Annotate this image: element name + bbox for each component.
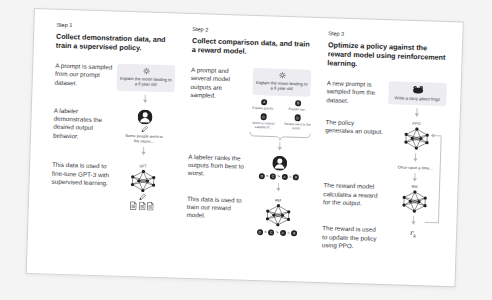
output-c-badge: C (260, 114, 267, 121)
step3-update-row: The reward is used to update the policy … (322, 225, 447, 254)
step1-labeler-figure: Some people went to the moon... (110, 108, 177, 156)
step2-train-row: This data is used to train our reward mo… (186, 195, 311, 237)
pencil-icon (141, 125, 148, 132)
rm-model-label: RM (275, 198, 281, 203)
document-icon (138, 202, 145, 211)
ppo-model-label: PPO (412, 121, 421, 126)
step1-column: Step 1 Collect demonstration data, and t… (49, 22, 181, 270)
step2-prompt-text: Explain the moon landing to a 6 year old (256, 80, 308, 93)
step3-label: Step 3 (328, 30, 452, 40)
step3-update-figure: rk (380, 226, 447, 253)
output-b-text: Explain war... (284, 107, 312, 112)
output-c-text: Moon is natural satellite of... (249, 121, 277, 130)
neural-network-icon (264, 203, 292, 227)
step1-finetune-figure: SFT (109, 163, 176, 212)
arrow-down-icon (140, 147, 146, 156)
step1-finetune-row: This data is used to fine-tune GPT-3 wit… (51, 161, 176, 212)
curly-brace (249, 131, 311, 142)
rank-item: C (270, 173, 276, 179)
step1-labeler-row: A labeler demonstrates the desired outpu… (52, 107, 177, 157)
step2-prompt-box: Explain the moon landing to a 6 year old (252, 68, 311, 97)
output-a-badge: A (261, 99, 268, 106)
step1-sample-figure: Explain the moon landing to a 6 year old (112, 64, 179, 105)
step1-demo-output: Some people went to the moon... (123, 133, 165, 145)
step1-sample-row: A prompt is sampled from our prompt data… (54, 62, 179, 105)
ppo-update-loop-arrow (424, 130, 447, 229)
output-d-badge: D (294, 115, 301, 122)
step3-output-spacer (324, 161, 383, 181)
rank-separator: > (264, 230, 267, 235)
arrow-down-icon (412, 153, 418, 162)
arrow-down-icon (277, 142, 283, 151)
rlhf-diagram-card: Step 1 Collect demonstration data, and t… (26, 8, 464, 287)
arrow-down-icon (412, 173, 418, 182)
rank-item: A (281, 174, 287, 180)
step3-policy-text: The policy generates an output. (324, 118, 383, 161)
arrow-down-icon (410, 216, 416, 225)
step3-prompt-box: Write a story about frogs (388, 81, 447, 106)
step1-sample-text: A prompt is sampled from our prompt data… (54, 62, 113, 103)
step2-column: Step 2 Collect comparison data, and trai… (185, 26, 317, 274)
sparkle-icon (142, 67, 149, 74)
document-icon (147, 202, 154, 211)
output-a-text: Explain gravity... (250, 106, 278, 111)
output-d: D People went to the moon... (282, 114, 312, 130)
reward-symbol: rk (410, 229, 416, 239)
step3-prompt-text: Write a story about frogs (394, 95, 440, 102)
labeler-icon (137, 109, 152, 124)
step1-prompt-box: Explain the moon landing to a 6 year old (116, 64, 175, 93)
step3-column: Step 3 Optimize a policy against the rew… (321, 30, 453, 278)
pencil-icon (139, 194, 146, 201)
step3-reward-text: The reward model calculates a reward for… (322, 182, 381, 225)
step2-title: Collect comparison data, and train a rew… (192, 36, 311, 58)
labeler-icon (272, 155, 287, 170)
rm-model-label: RM (411, 184, 417, 189)
rank-item: D (259, 173, 265, 179)
sft-model-label: SFT (139, 164, 147, 169)
sparkle-icon (278, 72, 285, 79)
step2-rank-text: A labeler ranks the outputs from best to… (187, 153, 246, 191)
output-d-text: People went to the moon... (283, 122, 311, 131)
step3-title: Optimize a policy against the reward mod… (327, 40, 446, 71)
step2-rank-figure: D > C > A = B (245, 155, 312, 193)
arrow-down-icon (142, 94, 148, 103)
rank-separator: > (278, 174, 281, 179)
ranking-display: D > C > A = B (257, 229, 298, 236)
step2-train-figure: RM D > C > A = B (244, 197, 311, 237)
step1-title: Collect demonstration data, and train a … (56, 32, 175, 54)
step3-update-text: The reward is used to update the policy … (322, 225, 381, 252)
output-b: B Explain war... (283, 100, 313, 112)
rank-separator: > (266, 174, 269, 179)
neural-network-icon (400, 190, 428, 214)
rank-item: B (291, 230, 297, 236)
step3-sample-text: A new prompt is sampled from the dataset… (326, 79, 385, 116)
document-icon (130, 201, 137, 210)
ranking-display: D > C > A = B (259, 173, 300, 180)
step2-sample-text: A prompt and several model outputs are s… (189, 66, 250, 150)
neural-network-icon (402, 127, 430, 151)
arrow-down-icon (414, 108, 420, 117)
rank-separator: > (276, 230, 279, 235)
step1-label: Step 1 (56, 22, 180, 32)
arrow-down-icon (275, 183, 281, 192)
step1-labeler-text: A labeler demonstrates the desired outpu… (52, 107, 111, 155)
step1-prompt-text: Explain the moon landing to a 6 year old (120, 75, 172, 88)
rank-item: A (280, 230, 286, 236)
rank-separator: = (287, 230, 290, 235)
step2-rank-row: A labeler ranks the outputs from best to… (187, 153, 312, 193)
model-outputs-grid: A Explain gravity... B Explain war... C … (248, 99, 313, 131)
step2-sample-figure: Explain the moon landing to a 6 year old… (247, 68, 316, 152)
step2-label: Step 2 (192, 26, 316, 36)
output-b-badge: B (295, 100, 302, 107)
output-c: C Moon is natural satellite of... (248, 113, 278, 129)
neural-network-icon (129, 169, 157, 193)
step1-finetune-text: This data is used to fine-tune GPT-3 wit… (51, 161, 110, 210)
frog-icon (411, 85, 424, 94)
step2-train-text: This data is used to train our reward mo… (186, 195, 245, 235)
step3-sample-row: A new prompt is sampled from the dataset… (326, 79, 451, 118)
rank-item: B (293, 174, 299, 180)
rank-item: D (257, 229, 263, 235)
documents-row (130, 201, 154, 211)
step2-sample-row: A prompt and several model outputs are s… (189, 66, 316, 152)
rank-separator: = (289, 174, 292, 179)
